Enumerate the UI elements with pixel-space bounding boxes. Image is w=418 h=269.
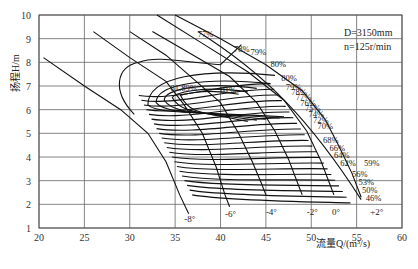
y-axis-label: 扬程H/m: [9, 54, 21, 92]
blade-angle-line: [44, 58, 189, 214]
efficiency-contour: [119, 45, 241, 115]
y-tick-label: 2: [26, 199, 31, 210]
efficiency-label: 62%: [340, 158, 356, 168]
y-tick-label: 3: [26, 176, 31, 187]
blade-angle-label: -6°: [225, 209, 236, 219]
x-tick-label: 20: [34, 232, 44, 243]
efficiency-label: 59%: [364, 158, 380, 168]
blade-angle-label: 0°: [332, 207, 341, 217]
efficiency-label: 80%: [270, 59, 286, 69]
efficiency-contour: [167, 146, 313, 150]
efficiency-label: 70%: [318, 121, 334, 131]
y-tick-label: 8: [26, 57, 31, 68]
efficiency-contour: [169, 152, 316, 155]
efficiency-contour: [174, 162, 323, 165]
blade-angle-labels: -8°-6°-4°-2°0°+2°: [184, 207, 384, 224]
y-tick-label: 4: [26, 152, 31, 163]
blade-angle-label: -4°: [266, 207, 277, 217]
y-tick-label: 1: [26, 223, 31, 234]
y-tick-label: 10: [21, 10, 31, 21]
speed-label: n=125r/min: [344, 40, 392, 54]
y-tick-label: 9: [26, 34, 31, 45]
y-tick-label: 5: [26, 128, 31, 139]
efficiency-label: 78%: [234, 44, 250, 54]
efficiency-label: 46%: [366, 193, 382, 203]
efficiency-label: 81%: [221, 85, 237, 95]
y-tick-label: 6: [26, 105, 31, 116]
blade-angle-label: +2°: [370, 207, 384, 217]
diameter-label: D=3150mm: [344, 26, 392, 40]
x-tick-label: 30: [125, 232, 135, 243]
x-axis-label: 流量Q/(m³/s): [316, 237, 370, 250]
blade-angle-line: [175, 15, 361, 197]
blade-angle-label: -8°: [184, 214, 195, 224]
x-tick-label: 45: [261, 232, 271, 243]
x-tick-label: 50: [306, 232, 316, 243]
efficiency-contour: [164, 140, 308, 144]
efficiency-label: 77%: [198, 29, 214, 39]
blade-angle-label: -2°: [307, 207, 318, 217]
efficiency-label: 79%: [250, 47, 266, 57]
efficiency-contour: [177, 166, 328, 169]
efficiency-label: 81.89%: [171, 83, 197, 93]
y-axis-ticks: 12345678910: [21, 10, 31, 234]
x-tick-label: 25: [79, 232, 89, 243]
x-tick-label: 40: [216, 232, 226, 243]
y-tick-label: 7: [26, 81, 31, 92]
efficiency-contour: [187, 185, 343, 191]
x-tick-label: 35: [170, 232, 180, 243]
x-tick-label: 60: [397, 232, 407, 243]
efficiency-contour: [179, 171, 331, 174]
parameter-annotation: D=3150mm n=125r/min: [344, 26, 392, 54]
